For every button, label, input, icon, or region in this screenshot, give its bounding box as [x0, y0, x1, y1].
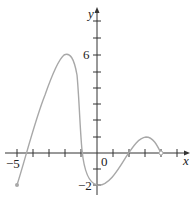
function-graph: y x −5 0 6 −2 [0, 0, 195, 197]
y-axis-arrow-icon [95, 7, 100, 13]
tick-label-neg5: −5 [6, 156, 20, 171]
tick-label-0: 0 [101, 154, 108, 169]
tick-label-neg2: −2 [78, 178, 92, 193]
closed-endpoint-marker [15, 183, 19, 187]
tick-label-6: 6 [83, 47, 90, 62]
x-axis-label: x [182, 153, 189, 168]
y-axis-label: y [86, 6, 94, 21]
function-curve [17, 54, 161, 185]
open-endpoint-marker [159, 151, 163, 155]
